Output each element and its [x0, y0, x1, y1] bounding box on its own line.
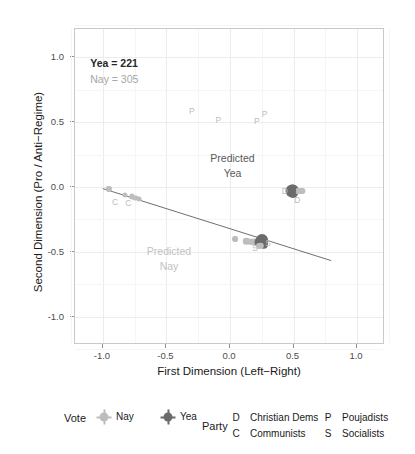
point-label-p: P — [215, 115, 221, 125]
y-tick-label: -0.5 — [48, 245, 64, 256]
gridline-vertical — [71, 29, 72, 343]
x-tick-label: 0.0 — [222, 350, 235, 361]
point-label-d: D — [294, 195, 300, 205]
y-tick-label: -1.0 — [48, 310, 64, 321]
x-tick-mark — [102, 344, 103, 348]
x-tick-label: -0.5 — [157, 350, 173, 361]
x-tick-mark — [356, 344, 357, 348]
point-label-d: D — [300, 186, 306, 196]
legend-party-label-c[interactable]: Communists — [250, 428, 306, 439]
point-label-p: P — [262, 109, 268, 119]
legend-label-yea[interactable]: Yea — [180, 411, 197, 422]
legend-label-nay[interactable]: Nay — [116, 411, 134, 422]
legend-party-label-s[interactable]: Socialists — [342, 428, 384, 439]
chart-legend: Vote NayYea Party DChristian DemsCCommun… — [0, 398, 415, 450]
plot-panel: PPPPCCCDDDDSSS Yea = 221 Nay = 305 Predi… — [74, 28, 384, 344]
legend-party-symbol-c[interactable]: C — [232, 428, 239, 439]
x-tick-mark — [293, 344, 294, 348]
point-label-s: S — [265, 238, 271, 248]
data-point-c — [137, 197, 142, 202]
cutting-line — [75, 29, 383, 343]
legend-party-title: Party — [202, 420, 228, 432]
legend-marker-nay[interactable] — [100, 413, 109, 422]
legend-party-symbol-s[interactable]: S — [325, 428, 332, 439]
point-label-p: P — [254, 116, 260, 126]
point-label-c: C — [106, 184, 112, 194]
legend-party-label-d[interactable]: Christian Dems — [250, 412, 318, 423]
x-tick-mark — [229, 344, 230, 348]
y-tick-label: 1.0 — [51, 51, 64, 62]
y-tick-label: 0.0 — [51, 181, 64, 192]
point-label-s: S — [252, 243, 258, 253]
x-tick-label: 1.0 — [349, 350, 362, 361]
legend-party-symbol-p[interactable]: P — [325, 412, 332, 423]
y-axis-title: Second Dimension (Pro / Anti−Regime) — [32, 34, 44, 350]
y-tick-label: 0.5 — [51, 116, 64, 127]
legend-party-symbol-d[interactable]: D — [232, 412, 239, 423]
gridline-horizontal — [75, 25, 383, 26]
x-tick-label: -1.0 — [94, 350, 110, 361]
point-label-p: P — [189, 106, 195, 116]
point-label-c: C — [112, 197, 118, 207]
point-label-c: C — [125, 198, 131, 208]
legend-vote-title: Vote — [64, 412, 86, 424]
x-tick-label: 0.5 — [286, 350, 299, 361]
legend-party-label-p[interactable]: Poujadists — [342, 412, 388, 423]
point-label-d: D — [282, 186, 288, 196]
point-label-s: S — [232, 234, 238, 244]
x-axis-title: First Dimension (Left−Right) — [74, 365, 384, 377]
gridline-vertical — [389, 29, 390, 343]
chart-root: Second Dimension (Pro / Anti−Regime) -1.… — [0, 0, 415, 454]
legend-marker-yea[interactable] — [164, 413, 173, 422]
x-tick-mark — [165, 344, 166, 348]
